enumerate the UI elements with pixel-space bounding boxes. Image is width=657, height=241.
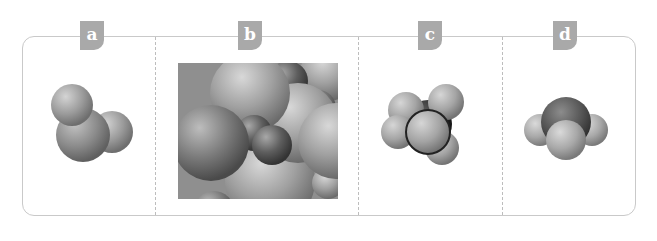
packed-spheres-icon [178,63,338,199]
molecule-model-b [178,63,338,199]
molecule-model-a [40,80,150,180]
panel-label-c: c [418,21,442,50]
molecule-model-d [522,92,612,167]
panel-label-d: d [553,21,577,50]
panel-label-a: a [80,21,104,50]
panel-divider-2 [358,37,359,215]
tetrahedral-model-icon [378,82,478,172]
space-filling-model-icon [40,80,150,180]
panel-divider-3 [502,37,503,215]
panel-divider-1 [155,37,156,215]
panel-label-b: b [238,21,262,50]
pyramidal-model-icon [522,92,612,167]
molecule-model-c [378,82,478,172]
